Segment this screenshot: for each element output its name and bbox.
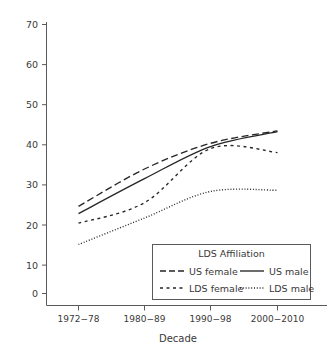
x-tick-label: 1980−89 <box>124 314 166 324</box>
x-tick-label: 1972−78 <box>58 314 100 324</box>
series-line-lds-female <box>79 146 278 224</box>
legend-label-us-female: US female <box>189 266 238 277</box>
y-tick-label: 10 <box>26 260 38 271</box>
y-tick-label: 40 <box>26 139 38 150</box>
legend-label-lds-male: LDS male <box>269 283 314 294</box>
y-axis-ticks: 70 60 50 40 30 20 10 0 <box>26 19 47 299</box>
series-line-us-male <box>79 132 278 214</box>
x-tick-label: 1990−98 <box>190 314 232 324</box>
legend-label-lds-female: LDS female <box>189 283 244 294</box>
legend-label-us-male: US male <box>269 266 309 277</box>
x-axis-title: Decade <box>159 333 197 344</box>
y-tick-label: 70 <box>26 19 38 30</box>
legend: LDS Affiliation US female US male LDS fe… <box>153 245 315 300</box>
chart-canvas: 70 60 50 40 30 20 10 0 1972−78 1980−89 1… <box>0 0 333 352</box>
y-tick-label: 50 <box>26 99 38 110</box>
legend-title: LDS Affiliation <box>198 248 265 259</box>
series-group <box>79 131 278 245</box>
line-chart: 70 60 50 40 30 20 10 0 1972−78 1980−89 1… <box>0 0 333 352</box>
series-line-us-female <box>79 131 278 206</box>
y-tick-label: 0 <box>32 288 38 299</box>
x-tick-label: 2000−2010 <box>251 314 305 324</box>
y-tick-label: 30 <box>26 179 38 190</box>
y-tick-label: 60 <box>26 59 38 70</box>
x-axis-ticks: 1972−78 1980−89 1990−98 2000−2010 <box>58 306 305 325</box>
y-tick-label: 20 <box>26 220 38 231</box>
